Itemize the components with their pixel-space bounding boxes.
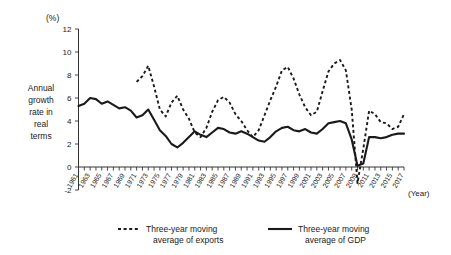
y-axis-title-line-3: rate in bbox=[29, 107, 53, 117]
legend-label-exports-line-2: average of exports bbox=[153, 235, 223, 245]
y-tick-label: 2 bbox=[67, 140, 72, 149]
growth-rate-line-chart: (%) Annual growth rate in real terms -20… bbox=[0, 0, 451, 255]
y-tick-label: 12 bbox=[63, 25, 72, 34]
y-tick-label: 10 bbox=[63, 48, 72, 57]
series-line-gdp bbox=[79, 98, 405, 166]
y-tick-label: 6 bbox=[67, 94, 72, 103]
legend-label-exports-line-1: Three-year moving bbox=[146, 224, 218, 234]
series-line-exports bbox=[137, 60, 404, 183]
y-axis-title-line-2: growth bbox=[28, 95, 54, 105]
legend: Three-year moving average of exports Thr… bbox=[118, 224, 370, 245]
y-axis-unit-label: (%) bbox=[46, 13, 59, 23]
y-axis-title-line-1: Annual bbox=[28, 83, 55, 93]
y-axis-unit-label-group: (%) bbox=[46, 13, 59, 23]
y-tick-label: 0 bbox=[67, 163, 72, 172]
y-tick-label: 8 bbox=[67, 71, 72, 80]
x-axis-title: (Year) bbox=[408, 189, 430, 198]
x-tick-label: 2017 bbox=[391, 172, 405, 189]
y-axis-title-group: Annual growth rate in real terms bbox=[28, 83, 55, 141]
legend-label-gdp-line-2: average of GDP bbox=[305, 235, 366, 245]
x-tick-label: 2009 bbox=[345, 172, 359, 189]
y-axis-title-line-5: terms bbox=[30, 131, 51, 141]
chart-series-group bbox=[79, 60, 405, 183]
y-tick-label: 4 bbox=[67, 117, 72, 126]
y-axis: -2024681012 bbox=[63, 25, 79, 195]
chart-container: (%) Annual growth rate in real terms -20… bbox=[0, 0, 451, 255]
y-axis-title-line-4: real bbox=[34, 119, 48, 129]
x-axis: 1961196319651967196919711973197519771979… bbox=[66, 167, 405, 189]
legend-label-gdp-line-1: Three-year moving bbox=[298, 224, 370, 234]
